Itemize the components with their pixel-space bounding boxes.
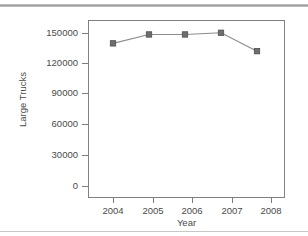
line-chart-figure: 0 30000 60000 90000 120000 150000 2004 2… bbox=[0, 8, 308, 230]
x-axis-title: Year bbox=[88, 217, 285, 228]
x-tick-label-4: 2008 bbox=[251, 205, 291, 216]
x-tick-3 bbox=[232, 198, 233, 203]
x-tick-label-2: 2006 bbox=[172, 205, 212, 216]
x-tick-4 bbox=[271, 198, 272, 203]
y-tick-3 bbox=[82, 93, 88, 94]
x-tick-label-3: 2007 bbox=[212, 205, 252, 216]
plot-series-canvas bbox=[88, 20, 285, 198]
x-tick-1 bbox=[153, 198, 154, 203]
y-tick-label-5: 150000 bbox=[18, 28, 78, 38]
x-tick-0 bbox=[113, 198, 114, 203]
y-tick-5 bbox=[82, 33, 88, 34]
data-point-2008 bbox=[254, 48, 259, 53]
data-point-2007 bbox=[218, 30, 223, 35]
y-axis-title: Large Trucks bbox=[17, 45, 28, 155]
y-tick-1 bbox=[82, 155, 88, 156]
x-tick-label-1: 2005 bbox=[133, 205, 173, 216]
data-point-2006 bbox=[182, 32, 187, 37]
bottom-divider bbox=[0, 231, 308, 232]
y-tick-2 bbox=[82, 124, 88, 125]
top-divider bbox=[0, 4, 308, 7]
series-markers bbox=[110, 30, 259, 54]
chart-page: 0 30000 60000 90000 120000 150000 2004 2… bbox=[0, 0, 308, 236]
data-point-2004 bbox=[110, 41, 115, 46]
x-tick-2 bbox=[192, 198, 193, 203]
x-tick-label-0: 2004 bbox=[93, 205, 133, 216]
y-tick-4 bbox=[82, 63, 88, 64]
y-tick-label-0: 0 bbox=[18, 181, 78, 191]
y-tick-0 bbox=[82, 186, 88, 187]
data-point-2005 bbox=[146, 32, 151, 37]
